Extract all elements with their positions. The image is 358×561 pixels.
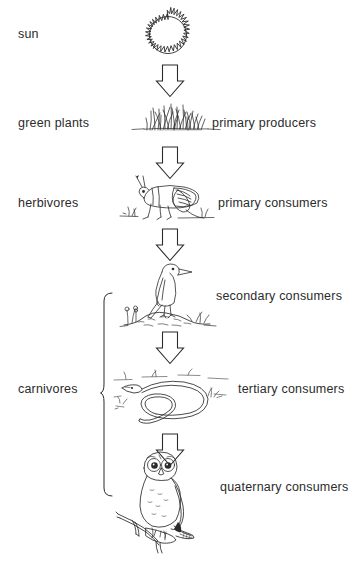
snake-icon xyxy=(112,366,230,428)
carnivores-bracket xyxy=(100,292,116,502)
owl-icon xyxy=(114,446,224,554)
bird-icon xyxy=(118,258,218,328)
level-label-sun: sun xyxy=(18,28,39,42)
flow-arrow-1 xyxy=(155,64,185,102)
grass-icon xyxy=(130,100,222,134)
level-label-quaternary-consumers: quaternary consumers xyxy=(220,481,348,495)
level-label-primary-producers: primary producers xyxy=(212,117,316,131)
level-label-herbivores: herbivores xyxy=(18,197,78,211)
sun-icon xyxy=(128,4,208,66)
grasshopper-icon xyxy=(118,172,218,222)
level-label-secondary-consumers: secondary consumers xyxy=(216,290,342,304)
level-label-tertiary-consumers: tertiary consumers xyxy=(238,383,344,397)
level-label-primary-consumers: primary consumers xyxy=(218,197,328,211)
group-label-carnivores: carnivores xyxy=(18,383,78,397)
level-label-green-plants: green plants xyxy=(18,117,89,131)
flow-arrow-4 xyxy=(155,331,185,369)
food-chain-diagram: sun green plants herbivores carnivores p… xyxy=(0,0,358,561)
